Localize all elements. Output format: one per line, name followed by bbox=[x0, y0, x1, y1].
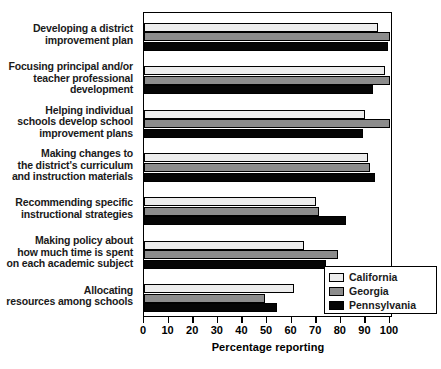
bar-california-5 bbox=[144, 241, 304, 250]
category-label-4: Recommending specificinstructional strat… bbox=[15, 197, 133, 220]
category-label-line: instructional strategies bbox=[15, 209, 133, 221]
x-tick-40 bbox=[241, 317, 242, 323]
category-label-2: Helping individualschools develop school… bbox=[17, 105, 133, 140]
bar-california-2 bbox=[144, 110, 365, 119]
bar-georgia-2 bbox=[144, 119, 390, 128]
bar-pennsylvania-5 bbox=[144, 260, 326, 269]
x-tick-label-50: 50 bbox=[253, 324, 279, 336]
x-tick-label-20: 20 bbox=[179, 324, 205, 336]
bar-georgia-0 bbox=[144, 32, 390, 41]
category-label-0: Developing a districtimprovement plan bbox=[33, 23, 133, 46]
x-tick-20 bbox=[192, 317, 193, 323]
bar-pennsylvania-6 bbox=[144, 303, 277, 312]
x-axis-tick-labels: 0102030405060708090100 bbox=[0, 324, 441, 338]
legend-label: Pennsylvania bbox=[349, 299, 416, 311]
x-tick-60 bbox=[291, 317, 292, 323]
legend-swatch-icon bbox=[329, 301, 344, 310]
legend-swatch-icon bbox=[329, 287, 344, 296]
legend-item-georgia: Georgia bbox=[329, 284, 432, 298]
x-tick-50 bbox=[266, 317, 267, 323]
x-tick-label-40: 40 bbox=[228, 324, 254, 336]
category-label-line: Focusing principal and/or bbox=[8, 61, 133, 73]
bar-georgia-4 bbox=[144, 207, 319, 216]
category-label-5: Making policy abouthow much time is spen… bbox=[6, 235, 133, 270]
legend-item-california: California bbox=[329, 270, 432, 284]
legend-label: California bbox=[349, 271, 397, 283]
x-tick-80 bbox=[340, 317, 341, 323]
bar-georgia-6 bbox=[144, 294, 265, 303]
category-label-line: schools develop school bbox=[17, 116, 133, 128]
category-label-6: Allocatingresources among schools bbox=[6, 285, 133, 308]
bar-california-6 bbox=[144, 284, 294, 293]
x-tick-label-80: 80 bbox=[327, 324, 353, 336]
x-tick-label-0: 0 bbox=[130, 324, 156, 336]
bar-pennsylvania-4 bbox=[144, 216, 346, 225]
x-tick-label-90: 90 bbox=[351, 324, 377, 336]
legend-swatch-icon bbox=[329, 273, 344, 282]
category-label-line: improvement plans bbox=[17, 128, 133, 140]
x-tick-label-60: 60 bbox=[278, 324, 304, 336]
x-tick-10 bbox=[168, 317, 169, 323]
x-tick-label-100: 100 bbox=[376, 324, 402, 336]
legend: CaliforniaGeorgiaPennsylvania bbox=[324, 266, 437, 314]
bar-california-4 bbox=[144, 197, 316, 206]
x-axis-title: Percentage reporting bbox=[143, 341, 393, 353]
category-label-1: Focusing principal and/orteacher profess… bbox=[8, 61, 133, 96]
category-label-line: on each academic subject bbox=[6, 258, 133, 270]
category-label-line: and instruction materials bbox=[12, 171, 133, 183]
bar-georgia-3 bbox=[144, 163, 370, 172]
category-label-line: improvement plan bbox=[33, 35, 133, 47]
bar-california-3 bbox=[144, 153, 368, 162]
bar-california-0 bbox=[144, 23, 378, 32]
x-tick-label-10: 10 bbox=[155, 324, 181, 336]
category-label-3: Making changes tothe district's curricul… bbox=[12, 148, 133, 183]
x-tick-90 bbox=[364, 317, 365, 323]
category-label-line: resources among schools bbox=[6, 296, 133, 308]
x-tick-70 bbox=[315, 317, 316, 323]
bar-pennsylvania-3 bbox=[144, 173, 375, 182]
x-tick-0 bbox=[143, 317, 144, 323]
category-label-line: Making changes to bbox=[12, 148, 133, 160]
x-tick-30 bbox=[217, 317, 218, 323]
legend-item-pennsylvania: Pennsylvania bbox=[329, 298, 432, 312]
bar-pennsylvania-1 bbox=[144, 85, 373, 94]
x-axis-ticks bbox=[143, 317, 393, 323]
x-tick-label-70: 70 bbox=[302, 324, 328, 336]
bar-georgia-5 bbox=[144, 250, 338, 259]
legend-label: Georgia bbox=[349, 285, 389, 297]
bar-pennsylvania-0 bbox=[144, 42, 388, 51]
category-axis-labels: Developing a districtimprovement planFoc… bbox=[0, 12, 138, 317]
bar-pennsylvania-2 bbox=[144, 129, 363, 138]
category-label-line: development bbox=[8, 84, 133, 96]
x-tick-100 bbox=[389, 317, 390, 323]
bar-california-1 bbox=[144, 66, 385, 75]
chart-container: Developing a districtimprovement planFoc… bbox=[0, 0, 441, 369]
bar-georgia-1 bbox=[144, 76, 390, 85]
x-tick-label-30: 30 bbox=[204, 324, 230, 336]
